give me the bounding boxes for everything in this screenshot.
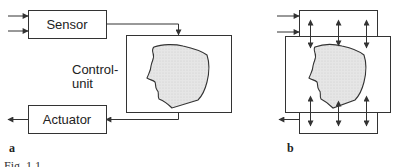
panel-label-b: b [287, 141, 294, 155]
figure-canvas: Sensor Control- unit Actuator a [0, 0, 403, 167]
actuator-label: Actuator [43, 112, 92, 127]
control-to-actuator-connector [106, 112, 179, 120]
figure-caption: Fig. 1.1 [4, 159, 41, 167]
panel-label-a: a [9, 141, 15, 155]
sensor-label: Sensor [46, 17, 88, 32]
control-unit-label-line2: unit [72, 76, 93, 91]
diagram-a: Sensor Control- unit Actuator a [8, 11, 232, 156]
diagram-b: b [277, 11, 391, 156]
control-unit-label-line1: Control- [72, 62, 118, 77]
sensor-to-control-connector [106, 24, 179, 35]
